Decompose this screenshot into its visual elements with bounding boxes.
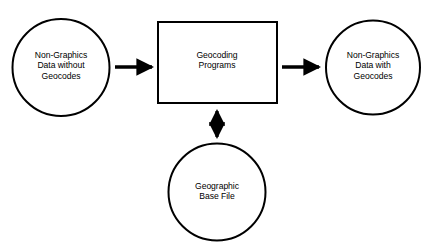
diagram-canvas: Non-Graphics Data without Geocodes Geoco… — [0, 0, 434, 250]
node-process-box — [158, 22, 277, 103]
node-input-circle — [13, 19, 110, 116]
diagram-graphics — [0, 0, 434, 250]
node-output-circle — [326, 21, 420, 115]
node-base-file-circle — [169, 144, 266, 241]
